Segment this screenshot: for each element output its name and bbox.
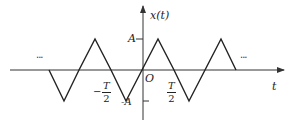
continuation-left: ... [36,49,43,60]
triangle-wave-diagram: x(t) A O t -A − T 2 T 2 ... ... [0,0,292,127]
neg-half-period-label: − T 2 [102,81,111,104]
plot-svg [0,0,292,127]
denominator: 2 [102,93,111,104]
t-axis-label: t [272,81,276,92]
numerator: T [102,81,111,93]
numerator: T [167,81,176,93]
denominator: 2 [167,93,176,104]
continuation-right: ... [240,49,247,60]
amplitude-label: A [128,33,136,44]
minus-sign: − [93,87,101,97]
neg-amplitude-label: -A [121,97,132,107]
origin-label: O [145,73,154,84]
y-axis-label: x(t) [150,10,169,21]
pos-half-period-label: T 2 [167,81,176,104]
